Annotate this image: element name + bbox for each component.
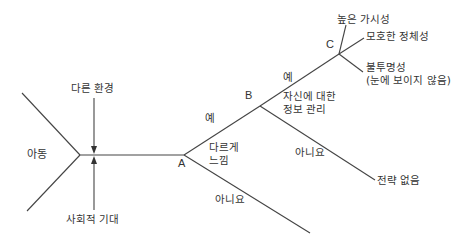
node-a-label: A	[178, 157, 185, 169]
b-question-line1: 자신에 대한	[283, 90, 336, 103]
a-no-branch	[184, 155, 310, 233]
a-yes-label: 예	[205, 112, 215, 125]
outcome-no-strategy: 전략 없음	[377, 174, 420, 187]
start-branch-lower	[27, 155, 80, 211]
arrow-up-icon	[91, 156, 97, 164]
a-question-line2: 느낌	[209, 154, 229, 167]
outcome-opacity-line1: 불투명성	[366, 61, 406, 74]
node-b-label: B	[245, 89, 252, 101]
a-no-label: 아니요	[215, 193, 245, 206]
outcome-high-visibility: 높은 가시성	[337, 13, 390, 26]
outcome-ambiguous-identity: 모호한 정체성	[366, 30, 429, 43]
c-branch-down	[339, 54, 363, 72]
input-different-environment: 다른 환경	[71, 82, 114, 95]
b-no-label: 아니요	[295, 146, 325, 159]
start-label: 아동	[27, 148, 47, 161]
b-no-branch	[260, 106, 375, 180]
b-question-line2: 정보 관리	[283, 103, 326, 116]
outcome-opacity-line2: (눈에 보이지 않음)	[366, 74, 451, 87]
input-social-expectation: 사회적 기대	[66, 213, 119, 226]
arrow-down-icon	[91, 146, 97, 154]
start-branch-upper	[22, 93, 80, 155]
node-c-label: C	[326, 38, 334, 50]
a-question-line1: 다르게	[209, 141, 239, 154]
b-yes-label: 예	[283, 71, 293, 84]
